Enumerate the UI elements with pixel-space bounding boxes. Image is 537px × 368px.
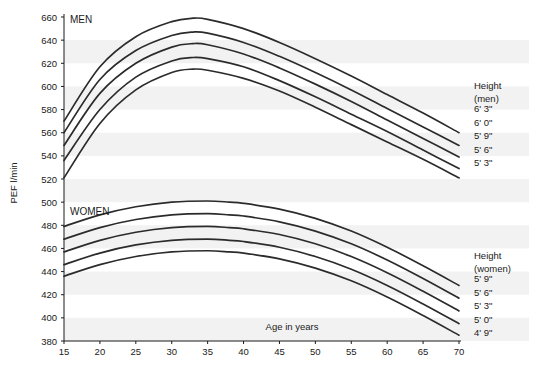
women-legend-item: 5' 6" <box>474 287 492 298</box>
y-tick-label: 480 <box>41 220 57 231</box>
y-tick-label: 500 <box>41 197 57 208</box>
x-tick-label: 20 <box>95 346 106 357</box>
men-legend-item: 5' 9" <box>474 130 492 141</box>
women-legend-item: 5' 3" <box>474 300 492 311</box>
y-tick-label: 400 <box>41 312 57 323</box>
chart-canvas: 6606406206005805605405205004804604404204… <box>0 0 537 368</box>
men-legend-item: 6' 3" <box>474 103 492 114</box>
pef-nomogram-chart: 6606406206005805605405205004804604404204… <box>0 0 537 368</box>
legends-group: Height(men)6' 3"6' 0"5' 9"5' 6"5' 3"Heig… <box>474 80 511 338</box>
y-tick-label: 640 <box>41 35 57 46</box>
y-tick-label: 540 <box>41 150 57 161</box>
x-tick-label: 65 <box>418 346 429 357</box>
y-tick-label: 600 <box>41 81 57 92</box>
men-legend-title: Height <box>474 80 502 91</box>
x-tick-label: 70 <box>454 346 465 357</box>
background-band <box>64 179 529 202</box>
x-tick-label: 60 <box>382 346 393 357</box>
women-legend-item: 4' 9" <box>474 327 492 338</box>
men-legend-item: 5' 3" <box>474 157 492 168</box>
y-axis-tick-labels: 6606406206005805605405205004804604404204… <box>41 12 57 347</box>
women-legend-item: 5' 0" <box>474 314 492 325</box>
women-curves-group <box>64 201 459 335</box>
y-tick-label: 660 <box>41 12 57 23</box>
men-legend-item: 6' 0" <box>474 117 492 128</box>
men-legend-item: 5' 6" <box>474 144 492 155</box>
pef-curve <box>64 69 459 178</box>
y-tick-label: 380 <box>41 336 57 347</box>
y-axis-title: PEF l/min <box>8 162 19 203</box>
x-tick-label: 30 <box>166 346 177 357</box>
x-tick-label: 45 <box>274 346 285 357</box>
x-axis-tick-labels: 152025303540455055606570 <box>59 346 465 357</box>
x-axis-title: Age in years <box>266 321 319 332</box>
y-tick-label: 420 <box>41 289 57 300</box>
y-tick-label: 440 <box>41 266 57 277</box>
y-tick-label: 560 <box>41 127 57 138</box>
x-tick-label: 55 <box>346 346 357 357</box>
y-tick-label: 460 <box>41 243 57 254</box>
x-tick-label: 50 <box>310 346 321 357</box>
women-legend-item: 5' 9" <box>474 273 492 284</box>
y-tick-label: 620 <box>41 58 57 69</box>
x-tick-label: 25 <box>131 346 142 357</box>
x-tick-label: 40 <box>238 346 249 357</box>
panel-label-women: WOMEN <box>70 206 109 217</box>
background-band <box>64 272 529 295</box>
x-tick-label: 35 <box>202 346 213 357</box>
women-legend-title: Height <box>474 250 502 261</box>
panel-label-men: MEN <box>70 14 92 25</box>
y-tick-label: 580 <box>41 104 57 115</box>
background-bands <box>64 40 529 341</box>
x-tick-label: 15 <box>59 346 70 357</box>
y-tick-label: 520 <box>41 174 57 185</box>
background-band <box>64 133 529 156</box>
